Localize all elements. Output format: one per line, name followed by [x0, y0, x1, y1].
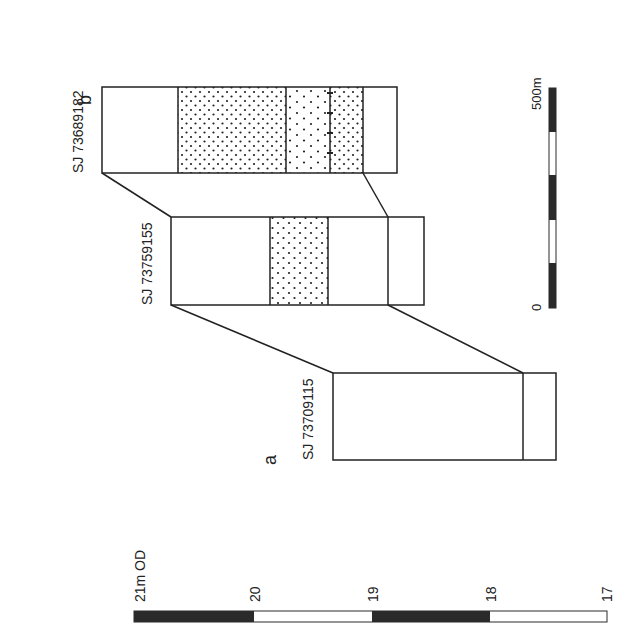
- borehole-a-column: [333, 373, 556, 460]
- distance-scale-bar: [549, 88, 556, 308]
- height-tick-17: 17: [599, 586, 615, 602]
- height-tick-18: 18: [483, 586, 499, 602]
- distance-scale-end: 500m: [529, 77, 544, 110]
- height-tick-19: 19: [365, 586, 381, 602]
- correlation-lines-upper: [102, 173, 388, 217]
- borehole-a-letter: a: [260, 454, 280, 465]
- borehole-middle-column: [171, 217, 424, 305]
- distance-scale-start: 0: [529, 304, 544, 311]
- borehole-a-gridref: SJ 73709115: [300, 378, 316, 460]
- height-scale-top-label: 21m OD: [132, 550, 148, 602]
- borehole-b-column: [102, 87, 397, 173]
- borehole-b-gridref: SJ 73689182: [70, 90, 86, 173]
- borehole-diagram: b SJ 73689182 SJ 73759155 a SJ 73709115 …: [0, 0, 625, 633]
- height-tick-20: 20: [247, 586, 263, 602]
- correlation-lines-lower: [171, 305, 523, 373]
- height-scale-bar: [134, 611, 607, 622]
- borehole-middle-gridref: SJ 73759155: [139, 222, 155, 305]
